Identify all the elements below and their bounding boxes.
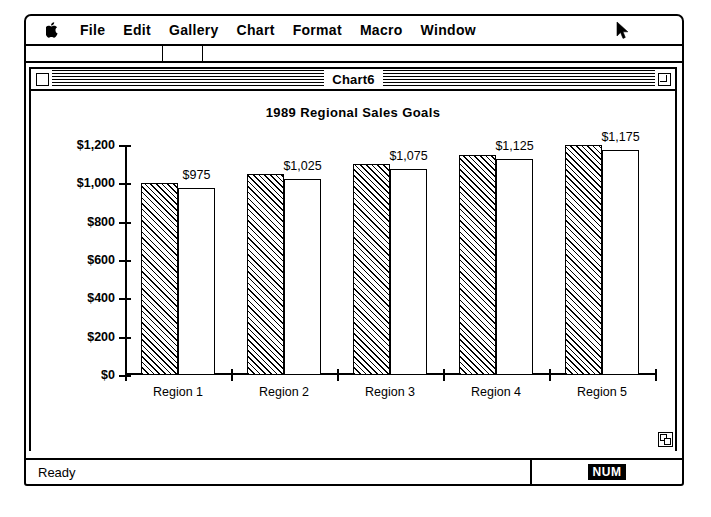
bar-data-label: $1,125 bbox=[495, 139, 533, 153]
menu-item-window[interactable]: Window bbox=[421, 22, 476, 38]
y-axis-tick bbox=[119, 145, 131, 147]
y-axis-label: $1,200 bbox=[45, 138, 115, 152]
x-axis-category-label: Region 3 bbox=[365, 385, 415, 399]
bar-actual[interactable] bbox=[178, 188, 215, 375]
bar-goal[interactable] bbox=[565, 145, 602, 375]
y-axis-tick bbox=[119, 260, 131, 262]
status-message: Ready bbox=[26, 465, 530, 480]
bar-goal[interactable] bbox=[459, 155, 496, 375]
menu-item-chart[interactable]: Chart bbox=[237, 22, 275, 38]
menu-item-file[interactable]: File bbox=[80, 22, 105, 38]
y-axis-label: $600 bbox=[45, 253, 115, 267]
y-axis-label: $1,000 bbox=[45, 176, 115, 190]
zoom-box-icon[interactable] bbox=[658, 73, 671, 86]
bar-goal[interactable] bbox=[247, 174, 284, 375]
y-axis-tick bbox=[119, 222, 131, 224]
toolbar-divider bbox=[202, 46, 203, 63]
apple-logo-icon[interactable] bbox=[46, 22, 60, 38]
status-indicators: NUM bbox=[532, 459, 682, 485]
y-axis-tick bbox=[119, 337, 131, 339]
close-box-icon[interactable] bbox=[36, 73, 49, 86]
chart-title: 1989 Regional Sales Goals bbox=[31, 105, 675, 120]
bar-data-label: $1,175 bbox=[601, 130, 639, 144]
num-lock-indicator: NUM bbox=[588, 464, 627, 480]
menu-item-macro[interactable]: Macro bbox=[360, 22, 403, 38]
y-axis-label: $800 bbox=[45, 215, 115, 229]
title-stripes-right bbox=[383, 70, 655, 88]
screen: File Edit Gallery Chart Format Macro Win… bbox=[0, 0, 711, 517]
menu-item-format[interactable]: Format bbox=[293, 22, 342, 38]
x-axis-tick bbox=[549, 369, 551, 381]
title-bar[interactable]: Chart6 bbox=[31, 69, 675, 91]
x-axis-category-label: Region 1 bbox=[153, 385, 203, 399]
document-title: Chart6 bbox=[324, 72, 382, 87]
x-axis-tick bbox=[443, 369, 445, 381]
chart-canvas: 1989 Regional Sales Goals $0$200$400$600… bbox=[31, 91, 675, 451]
application-window: File Edit Gallery Chart Format Macro Win… bbox=[24, 14, 684, 486]
bar-goal[interactable] bbox=[141, 183, 178, 375]
bar-actual[interactable] bbox=[602, 150, 639, 375]
menu-bar: File Edit Gallery Chart Format Macro Win… bbox=[26, 16, 682, 46]
x-axis-category-label: Region 4 bbox=[471, 385, 521, 399]
y-axis-label: $0 bbox=[45, 368, 115, 382]
y-axis-tick bbox=[119, 183, 131, 185]
menu-item-gallery[interactable]: Gallery bbox=[169, 22, 219, 38]
grow-box-icon[interactable] bbox=[658, 432, 673, 447]
bar-actual[interactable] bbox=[284, 179, 321, 375]
x-axis-category-label: Region 5 bbox=[577, 385, 627, 399]
x-axis-category-label: Region 2 bbox=[259, 385, 309, 399]
bar-actual[interactable] bbox=[496, 159, 533, 375]
status-bar: Ready NUM bbox=[26, 458, 682, 484]
document-window: Chart6 1989 Regional Sales Goals $0$200$… bbox=[29, 67, 677, 451]
arrow-pointer-icon bbox=[616, 21, 630, 41]
title-stripes-left bbox=[52, 70, 324, 88]
toolbar-divider bbox=[162, 46, 163, 63]
chart-plot-area: $0$200$400$600$800$1,000$1,200 Region 1R… bbox=[125, 145, 655, 375]
x-axis-tick bbox=[125, 369, 127, 381]
y-axis-tick bbox=[119, 298, 131, 300]
bar-data-label: $975 bbox=[183, 168, 211, 182]
x-axis-tick bbox=[337, 369, 339, 381]
y-axis-label: $200 bbox=[45, 330, 115, 344]
toolbar-strip bbox=[26, 46, 682, 63]
bar-data-label: $1,075 bbox=[389, 149, 427, 163]
bar-data-label: $1,025 bbox=[283, 159, 321, 173]
bar-actual[interactable] bbox=[390, 169, 427, 375]
x-axis-tick bbox=[231, 369, 233, 381]
y-axis-label: $400 bbox=[45, 291, 115, 305]
bar-goal[interactable] bbox=[353, 164, 390, 375]
menu-item-edit[interactable]: Edit bbox=[123, 22, 151, 38]
x-axis-tick bbox=[655, 369, 657, 381]
